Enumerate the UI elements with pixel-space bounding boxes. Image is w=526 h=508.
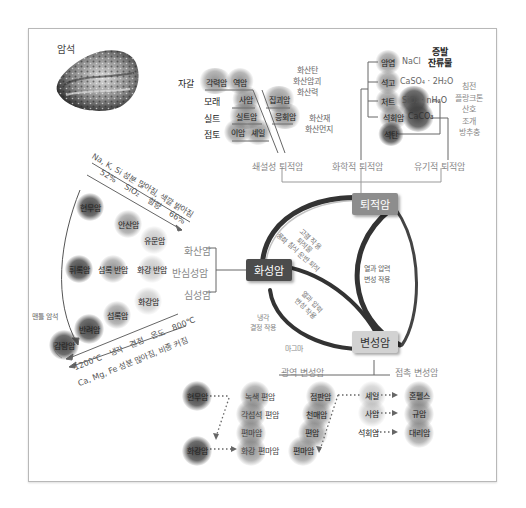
- formula-halite: NaCl: [402, 57, 421, 66]
- rock-limestone-contact: 석회암: [358, 427, 379, 438]
- rock-breccia: 각력암: [206, 77, 227, 88]
- rock-mudstone: 이암: [231, 127, 245, 138]
- chemical-title: 화학적 퇴적암: [332, 160, 383, 173]
- rock-tuff: 응회암: [275, 111, 296, 122]
- igneous-plutonic: 심성암: [184, 287, 211, 302]
- volcanic-sources-1: 화산탄 화산암괴 화산력: [293, 65, 321, 98]
- organic-title: 유기적 퇴적암: [414, 160, 465, 173]
- formula-limestone: CaCO₃: [408, 112, 434, 121]
- rock-agglomerate: 집괴암: [269, 94, 290, 105]
- rock-gabbro: 반려암: [79, 324, 100, 335]
- rock-amphibolite-schist: 각섬석 편암: [241, 409, 279, 420]
- rock-basalt-meta: 현무암: [187, 391, 208, 402]
- rock-sandstone: 사암: [239, 94, 253, 105]
- rock-hornfels: 혼펠스: [409, 390, 430, 401]
- rock-coal: 석탄: [384, 129, 398, 140]
- sediment-silt: 실트: [204, 112, 220, 125]
- rock-gneiss-2: 편마암: [293, 445, 314, 456]
- rock-diabase: 휘록암: [69, 264, 90, 275]
- rock-chert: 처트: [381, 96, 395, 107]
- rock-conglomerate: 역암: [233, 77, 247, 88]
- rock-peridotite: 감람암: [54, 340, 75, 351]
- rock-granite-porphyry: 화강 반암: [137, 264, 168, 275]
- rock-schist: 편암: [305, 427, 319, 438]
- rock-phyllite: 천매암: [306, 409, 327, 420]
- rock-granite-gneiss: 화강 편마암: [241, 445, 279, 456]
- sediment-sand: 모래: [204, 95, 220, 108]
- rock-granite-meta: 화강암: [187, 445, 208, 456]
- rock-shale-contact: 셰일: [365, 390, 379, 401]
- formula-gypsum: CaSO₄ · 2H₂O: [400, 77, 453, 86]
- rock-limestone: 석회암: [383, 112, 404, 123]
- rock-shale: 셰일: [251, 127, 265, 138]
- rock-gypsum: 석고: [381, 77, 395, 88]
- clastic-title: 쇄설성 퇴적암: [252, 160, 303, 173]
- sediment-gravel: 자갈: [178, 77, 194, 90]
- rock-basalt: 현무암: [80, 202, 101, 213]
- rock-slate: 점판암: [310, 391, 331, 402]
- regional-title: 광역 변성암: [281, 366, 324, 379]
- igneous-hypabyssal: 반심성암: [172, 265, 208, 280]
- mantle-label: 맨틀 암석: [32, 311, 58, 321]
- contact-title: 접촉 변성암: [395, 366, 438, 379]
- igneous-volcanic: 화산암: [184, 243, 211, 258]
- rock-quartzite: 규암: [412, 408, 426, 419]
- rock-greenschist: 녹색 편암: [245, 391, 276, 402]
- organic-sources: 침전 플랑크톤 산호 조개 방추충: [455, 81, 483, 139]
- magma-label: 마그마: [285, 343, 303, 353]
- rock-granite: 화강암: [138, 296, 159, 307]
- cooling-label: 냉각 결정 작용: [250, 313, 276, 333]
- sedimentary-rock-box: 퇴적암: [352, 193, 398, 215]
- rock-halite: 암염: [381, 57, 395, 68]
- rock-marble: 대리암: [409, 427, 430, 438]
- rock-siltstone: 실트암: [236, 111, 257, 122]
- sediment-clay: 점토: [204, 128, 220, 141]
- igneous-rock-box: 화성암: [246, 259, 292, 281]
- heat-pressure-right-label: 열과 압력 변성 작용: [364, 264, 390, 286]
- rock-rhyolite: 유문암: [144, 235, 165, 246]
- formula-chert: SiO₂ · nH₂O: [402, 96, 447, 105]
- rock-diorite: 섬록암: [107, 310, 128, 321]
- volcanic-sources-2: 화산재 화산먼지: [305, 113, 333, 135]
- rock-andesite: 안산암: [118, 219, 139, 230]
- rock-sandstone-contact: 사암: [365, 408, 379, 419]
- rock-gneiss-1: 편마암: [241, 427, 262, 438]
- evaporite-label: 증발 잔류물: [428, 47, 452, 69]
- rock-diorite-porphyry: 섬록 반암: [98, 264, 129, 275]
- metamorphic-rock-box: 변성암: [352, 331, 398, 353]
